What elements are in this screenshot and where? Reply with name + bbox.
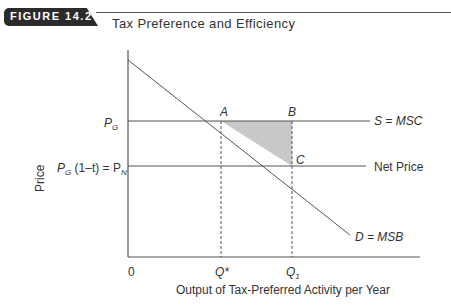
point-b-label: B <box>288 105 296 119</box>
chart: Price PG PG (1–t) = PN A B C S = MSC Net… <box>0 0 451 306</box>
deadweight-loss-area <box>221 121 292 166</box>
demand-label: D = MSB <box>355 230 403 244</box>
y-axis-label: Price <box>33 164 47 192</box>
point-c-label: C <box>296 153 305 167</box>
net-price-label: Net Price <box>374 160 424 174</box>
point-a-label: A <box>219 105 228 119</box>
pn-label: PG (1–t) = PN <box>57 161 127 177</box>
qstar-label: Q* <box>215 265 229 279</box>
origin-label: 0 <box>128 265 135 279</box>
demand-line <box>128 60 350 235</box>
pg-label: PG <box>104 116 118 132</box>
x-axis-label: Output of Tax-Preferred Activity per Yea… <box>176 283 390 297</box>
supply-label: S = MSC <box>374 114 423 128</box>
q1-label: Q1 <box>286 265 300 281</box>
